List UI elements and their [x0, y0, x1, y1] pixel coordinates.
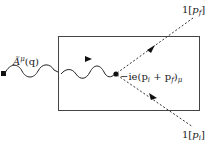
outgoing-label-coef: 1[	[182, 4, 192, 15]
vertex-factor-mid: + p	[150, 71, 171, 82]
photon-line-inner	[61, 66, 115, 78]
photon-label: Ãμ(q)	[13, 56, 39, 67]
incoming-arrow-icon	[149, 93, 157, 100]
incoming-label-close: ]	[201, 129, 205, 140]
outgoing-arrow-icon	[147, 45, 155, 53]
vertex-factor-sub-mu: μ	[178, 76, 183, 84]
incoming-label-coef: 1[	[182, 129, 192, 140]
photon-arrow-icon	[85, 56, 92, 62]
vertex-factor-label: −ie(pi + pf)μ	[120, 72, 182, 84]
vertex-factor-prefix: −ie(p	[120, 71, 148, 82]
outgoing-scalar-line	[117, 18, 193, 73]
outgoing-label: 1[pf]	[182, 5, 205, 17]
outgoing-label-close: ]	[201, 4, 205, 15]
incoming-label: 1[pi]	[182, 130, 205, 142]
photon-label-arg: (q)	[25, 56, 39, 67]
